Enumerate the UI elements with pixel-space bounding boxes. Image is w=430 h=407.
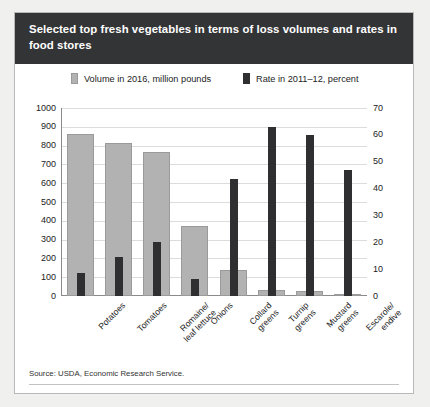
bar-group bbox=[258, 108, 285, 296]
bar-group bbox=[334, 108, 361, 296]
divider bbox=[29, 384, 399, 385]
x-axis-category-label: Tomatoes bbox=[136, 301, 169, 334]
bar-group bbox=[105, 108, 132, 296]
title-bar: Selected top fresh vegetables in terms o… bbox=[15, 13, 413, 64]
legend-item-rate: Rate in 2011–12, percent bbox=[243, 73, 359, 84]
y-axis-left-tick-label: 900 bbox=[41, 122, 56, 131]
bar-rate bbox=[306, 135, 314, 296]
bar-rate bbox=[153, 242, 161, 296]
x-axis-category-label: Onions bbox=[209, 301, 235, 327]
y-axis-left-tick-label: 200 bbox=[41, 254, 56, 263]
y-axis-right-tick-label: 60 bbox=[373, 130, 383, 139]
y-axis-left-tick-label: 300 bbox=[41, 235, 56, 244]
legend-label-volume: Volume in 2016, million pounds bbox=[84, 74, 211, 84]
bar-group bbox=[67, 108, 94, 296]
x-axis-category-label: Potatoes bbox=[97, 301, 128, 332]
y-axis-right-tick-label: 50 bbox=[373, 157, 383, 166]
x-axis-category-label: Turnipgreens bbox=[286, 301, 318, 333]
source-note: Source: USDA, Economic Research Service. bbox=[29, 369, 184, 378]
bar-rate bbox=[344, 170, 352, 296]
y-axis-right-tick-label: 0 bbox=[373, 292, 378, 301]
legend-item-volume: Volume in 2016, million pounds bbox=[71, 73, 211, 84]
x-axis-category-label: Collardgreens bbox=[248, 301, 281, 334]
y-axis-left-tick-label: 0 bbox=[51, 292, 56, 301]
bar-rate bbox=[115, 257, 123, 296]
chart-legend: Volume in 2016, million pounds Rate in 2… bbox=[15, 66, 413, 92]
x-axis-category-label: Mustardgreens bbox=[325, 301, 361, 337]
bar-rate bbox=[268, 127, 276, 296]
bar-group bbox=[181, 108, 208, 296]
y-axis-left-tick-label: 600 bbox=[41, 179, 56, 188]
page-title: Selected top fresh vegetables in terms o… bbox=[29, 22, 399, 53]
bar-volume bbox=[67, 134, 94, 296]
bar-rate bbox=[191, 279, 199, 296]
x-axis-category-label: Escarole/endive bbox=[365, 301, 404, 340]
y-axis-left-tick-label: 800 bbox=[41, 141, 56, 150]
bar-rate bbox=[230, 179, 238, 296]
bar-group bbox=[220, 108, 247, 296]
plot-area: 01002003004005006007008009001000 0102030… bbox=[15, 92, 413, 327]
y-axis-right-tick-label: 10 bbox=[373, 265, 383, 274]
y-axis-left-tick-label: 400 bbox=[41, 216, 56, 225]
y-axis-right-tick-label: 70 bbox=[373, 104, 383, 113]
y-axis-left-tick-label: 100 bbox=[41, 273, 56, 282]
y-axis-left-tick-label: 500 bbox=[41, 198, 56, 207]
y-axis-right-tick-label: 40 bbox=[373, 184, 383, 193]
y-axis-right-tick-label: 30 bbox=[373, 211, 383, 220]
bar-rate bbox=[77, 273, 85, 296]
bar-group bbox=[143, 108, 170, 296]
legend-label-rate: Rate in 2011–12, percent bbox=[256, 74, 359, 84]
plot-frame: 01002003004005006007008009001000 0102030… bbox=[61, 108, 367, 296]
y-axis-right-tick-label: 20 bbox=[373, 238, 383, 247]
square-swatch-black-icon bbox=[243, 73, 250, 84]
bar-series-container bbox=[61, 108, 367, 296]
y-axis-left-tick-label: 1000 bbox=[36, 104, 56, 113]
bar-group bbox=[296, 108, 323, 296]
square-swatch-gray-icon bbox=[71, 73, 78, 84]
chart-card: Selected top fresh vegetables in terms o… bbox=[14, 12, 414, 394]
y-axis-left-tick-label: 700 bbox=[41, 160, 56, 169]
